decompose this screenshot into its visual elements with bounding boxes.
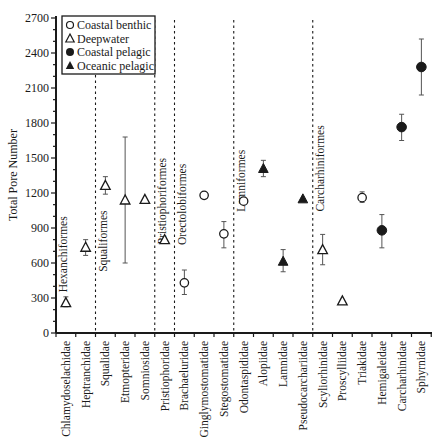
legend: Coastal benthicDeepwaterCoastal pelagicO… (62, 16, 155, 74)
x-category-label: Pristiophoridae (159, 341, 172, 411)
legend-label: Oceanic pelagic (77, 59, 154, 73)
y-axis-label: Total Pore Number (6, 129, 20, 221)
y-tick-label: 1800 (25, 116, 49, 130)
open-circle-marker (239, 197, 247, 205)
filled-circle-icon (66, 48, 74, 56)
data-point-triakidae (358, 192, 366, 203)
data-point-brachaeluridae (180, 270, 188, 295)
x-category-label: Heptranchidae (80, 341, 93, 408)
x-category-label: Chlamydoselachidae (60, 341, 73, 437)
filled-triangle-marker (259, 164, 269, 173)
x-category-label: Sphyrnidae (415, 341, 428, 393)
open-circle-icon (67, 22, 74, 29)
x-ticks: ChlamydoselachidaeHeptranchidaeSqualidae… (56, 333, 431, 437)
x-category-label: Hemigaleidae (376, 341, 389, 405)
open-triangle-marker (81, 242, 91, 251)
data-point-proscylliidae (338, 296, 348, 305)
filled-triangle-marker (298, 194, 308, 203)
x-category-label: Somniosidae (139, 341, 151, 400)
x-category-label: Alopiidae (257, 341, 270, 386)
legend-item: Oceanic pelagic (66, 59, 154, 73)
y-tick-label: 300 (31, 291, 49, 305)
open-circle-marker (200, 191, 208, 199)
data-point-etmopteridae (120, 137, 130, 263)
data-point-pseudocarchariidae (298, 194, 308, 203)
filled-circle-marker (377, 226, 387, 236)
order-label: Squaliformes (97, 210, 110, 272)
legend-item: Coastal benthic (67, 18, 152, 32)
legend-item: Coastal pelagic (66, 45, 151, 59)
data-point-alopiidae (259, 160, 269, 176)
x-category-label: Squalidae (99, 341, 112, 386)
order-label: Orectolobiformes (176, 163, 188, 245)
data-point-stegostomatidae (220, 222, 228, 248)
legend-label: Coastal benthic (77, 18, 151, 32)
y-tick-label: 2400 (25, 46, 49, 60)
open-triangle-marker (318, 245, 328, 254)
open-circle-marker (180, 279, 188, 287)
pore-number-chart: Total Pore Number HexanchiformesSqualifo… (0, 0, 444, 446)
y-tick-label: 0 (43, 326, 49, 340)
data-point-carcharhinidae (397, 114, 407, 140)
open-triangle-marker (61, 298, 71, 307)
order-label: Hexanchiformes (57, 216, 69, 293)
y-tick-label: 2100 (25, 81, 49, 95)
order-labels: HexanchiformesSqualiformesPristiophorifo… (57, 125, 326, 293)
data-point-ginglymostomatidae (200, 191, 208, 199)
filled-triangle-marker (278, 256, 288, 265)
data-point-scyliorhinidae (318, 234, 328, 264)
open-circle-marker (220, 230, 228, 238)
open-triangle-marker (140, 194, 150, 203)
y-tick-label: 1200 (25, 186, 49, 200)
open-circle-marker (358, 193, 366, 201)
filled-circle-marker (417, 62, 427, 72)
x-category-label: Etmopteridae (119, 341, 132, 403)
legend-label: Deepwater (77, 32, 129, 46)
data-point-somniosidae (140, 194, 150, 203)
data-point-odontaspididae (239, 197, 247, 205)
data-point-heptranchidae (81, 240, 91, 256)
y-tick-label: 1500 (25, 151, 49, 165)
data-point-squalidae (101, 177, 111, 195)
open-triangle-marker (338, 296, 348, 305)
open-triangle-marker (120, 195, 130, 204)
data-point-lamnidae (278, 250, 288, 272)
data-point-hemigaleidae (377, 215, 387, 248)
y-tick-label: 2700 (25, 11, 49, 25)
y-tick-label: 600 (31, 256, 49, 270)
data-point-sphyrnidae (417, 39, 427, 95)
x-category-label: Proscylliidae (336, 341, 349, 401)
y-ticks: 0300600900120015001800210024002700 (25, 11, 56, 340)
x-category-label: Scyliorhinidae (317, 341, 330, 408)
x-category-label: Pseudocarchariidae (297, 341, 309, 430)
x-category-label: Lamnidae (277, 341, 289, 387)
order-label: Pristiophoriformes (156, 157, 169, 244)
legend-label: Coastal pelagic (77, 45, 151, 59)
y-tick-label: 900 (31, 221, 49, 235)
x-category-label: Odontaspididae (238, 341, 251, 413)
x-category-label: Brachaeluridae (178, 341, 190, 411)
data-point-chlamydoselachidae (61, 297, 71, 307)
order-label: Carcharhiniformes (314, 125, 326, 212)
x-category-label: Carcharhinidae (396, 341, 408, 411)
y-axis-label-group: Total Pore Number (6, 129, 20, 221)
filled-circle-marker (397, 122, 407, 132)
x-category-label: Stegostomatidae (218, 341, 231, 417)
x-category-label: Triakidae (356, 341, 368, 385)
open-triangle-marker (101, 180, 111, 189)
x-category-label: Ginglymostomatidae (198, 341, 211, 437)
